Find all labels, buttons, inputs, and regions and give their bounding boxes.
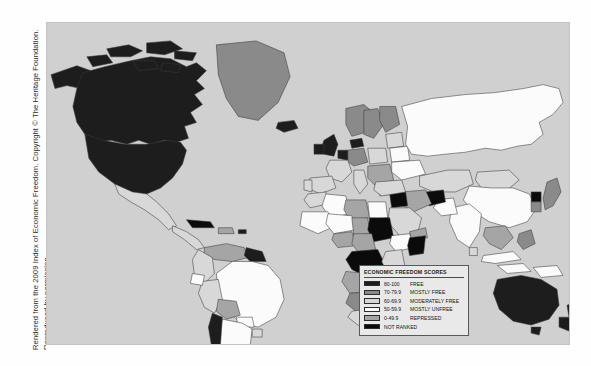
screenshot-root: Rendered from the 2009 Index of Economic… [0,0,591,366]
region-belarus [390,146,410,162]
region-egypt [368,202,388,220]
region-canada-arctic-6 [175,51,197,61]
legend-range-repressed: 0-49.9 [384,315,410,321]
legend-swatch-repressed [364,315,380,320]
region-chad [352,218,370,236]
legend-row-mostly-free: 70-79.9 MOSTLY FREE [364,289,464,296]
legend-row-moderately-free: 60-69.9 MODERATELY FREE [364,297,464,304]
legend-label-mostly-free: MOSTLY FREE [410,289,445,295]
legend-label-mostly-unfree: MOSTLY UNFREE [410,306,453,312]
region-portugal [304,180,312,192]
region-hispaniola [218,228,234,234]
world-map-panel: ECONOMIC FREEDOM SCORES 80-100 FREE 70-7… [46,22,570,345]
region-uruguay [252,329,262,337]
region-poland [368,148,388,164]
legend-range-free: 80-100 [384,281,410,287]
region-ecuador [190,273,204,285]
legend-swatch-not-ranked [364,324,380,329]
legend-row-free: 80-100 FREE [364,280,464,287]
region-canada-arctic-5 [161,63,181,73]
legend-swatch-free [364,281,380,286]
legend-range-mostly-unfree: 50-59.9 [384,306,410,312]
region-ireland [314,144,324,154]
legend-range-moderately-free: 60-69.9 [384,298,410,304]
region-somalia [408,236,426,256]
region-south-korea [531,202,541,212]
legend-row-not-ranked: NOT RANKED [364,323,464,330]
legend-label-moderately-free: MODERATELY FREE [410,298,459,304]
legend-row-mostly-unfree: 50-59.9 MOSTLY UNFREE [364,306,464,313]
caption-line-1: Rendered from the 2009 Index of Economic… [31,29,40,350]
region-baltics [386,132,404,148]
legend-label-not-ranked: NOT RANKED [384,324,417,330]
legend-row-repressed: 0-49.9 REPRESSED [364,314,464,321]
legend-label-repressed: REPRESSED [410,315,441,321]
region-netherlands-belgium [338,150,348,160]
source-caption: Rendered from the 2009 Index of Economic… [0,0,46,366]
legend-label-free: FREE [410,281,424,287]
region-puerto-rico [238,230,246,234]
legend-range-mostly-free: 70-79.9 [384,289,410,295]
legend-title: ECONOMIC FREEDOM SCORES [364,269,464,278]
region-north-korea [531,192,541,202]
map-legend: ECONOMIC FREEDOM SCORES 80-100 FREE 70-7… [359,265,469,336]
legend-swatch-moderately-free [364,298,380,303]
region-sri-lanka [469,248,477,256]
legend-swatch-mostly-free [364,290,380,295]
legend-swatch-mostly-unfree [364,307,380,312]
region-denmark [350,138,364,148]
world-map-graphic [47,23,569,344]
